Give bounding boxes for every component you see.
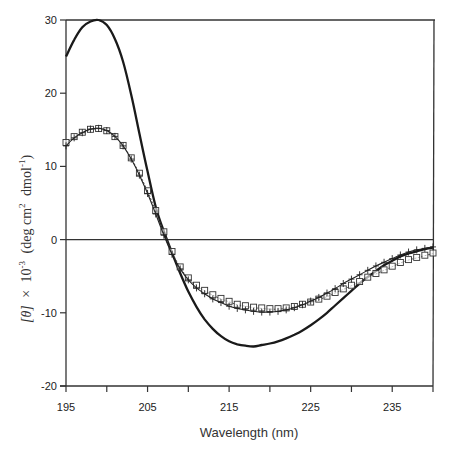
ylabel-cm-exp: 2 [17, 203, 27, 208]
svg-text:[θ] × 10-3 (: [θ] × 10-3 (deg cm2 dmol-1) [13, 155, 35, 323]
square-marker [365, 274, 371, 280]
x-tick-label: 205 [138, 401, 156, 413]
ylabel-dmol: dmol [19, 167, 34, 196]
x-tick-label: 215 [220, 401, 238, 413]
right-border [433, 20, 434, 386]
ylabel-ten: 10 [19, 268, 34, 282]
series-squares-thin-line [63, 126, 436, 312]
y-tick-label: 10 [45, 160, 57, 172]
ylabel-close: ) [19, 155, 35, 160]
y-tick-label: -20 [41, 380, 57, 392]
plot-frame [60, 20, 435, 386]
square-marker [422, 252, 428, 258]
square-marker [348, 282, 354, 288]
y-tick-label: 0 [51, 234, 57, 246]
cd-spectrum-chart: 195205215225235 3020100-10-20 Wavelength… [0, 0, 451, 459]
x-axis-title: Wavelength (nm) [200, 425, 299, 440]
square-marker [389, 263, 395, 269]
y-axis-ticks: 3020100-10-20 [41, 14, 66, 392]
y-tick-label: -10 [41, 307, 57, 319]
ylabel-unit: (deg cm [19, 208, 35, 254]
thick-curve [66, 20, 433, 347]
x-tick-label: 235 [383, 401, 401, 413]
square-marker [414, 254, 420, 260]
x-tick-label: 195 [57, 401, 75, 413]
ylabel-exp: -3 [17, 260, 27, 268]
series-solid-thick [66, 20, 433, 347]
ylabel-theta: [θ] [19, 305, 34, 323]
y-tick-label: 20 [45, 87, 57, 99]
x-tick-label: 225 [301, 401, 319, 413]
x-axis-ticks: 195205215225235 [57, 386, 433, 413]
square-marker [373, 271, 379, 277]
y-axis-title: [θ] × 10-3 (deg cm2 dmol-1) [13, 155, 35, 323]
square-marker [397, 260, 403, 266]
square-marker [406, 257, 412, 263]
data-series [63, 20, 436, 347]
crosses-curve [66, 128, 433, 312]
ylabel-times: × [19, 290, 34, 298]
y-tick-label: 30 [45, 14, 57, 26]
square-marker [430, 250, 436, 256]
square-marker [381, 267, 387, 273]
series-plus-thin-line [63, 125, 436, 316]
squares-curve [66, 129, 433, 309]
square-marker [357, 279, 363, 285]
ylabel-dmol-exp: -1 [17, 160, 27, 168]
